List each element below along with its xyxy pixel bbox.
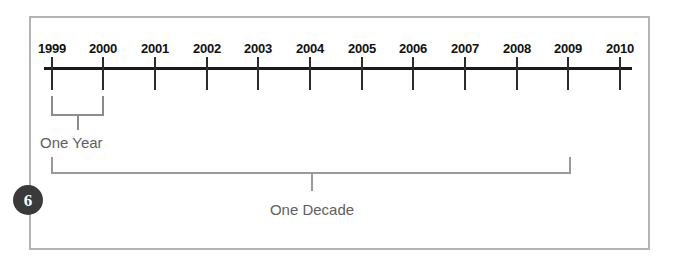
one-decade-bracket-stem: [311, 174, 313, 191]
year-label: 2000: [89, 41, 117, 56]
one-year-bracket-stem: [77, 116, 79, 130]
axis-tick: [206, 57, 208, 90]
year-label: 2002: [193, 41, 221, 56]
year-label: 2006: [399, 41, 427, 56]
year-label: 2004: [296, 41, 324, 56]
axis-tick: [154, 57, 156, 90]
year-label: 2010: [606, 41, 634, 56]
axis-tick: [361, 57, 363, 90]
year-label: 1999: [38, 41, 66, 56]
axis-tick: [464, 57, 466, 90]
axis-tick: [567, 57, 569, 90]
year-label: 2005: [348, 41, 376, 56]
one-decade-label: One Decade: [270, 201, 354, 218]
year-label: 2007: [451, 41, 479, 56]
one-decade-bracket: [51, 157, 571, 174]
axis-tick: [257, 57, 259, 90]
timeline-axis: [44, 67, 632, 70]
year-label: 2008: [503, 41, 531, 56]
one-year-bracket: [51, 96, 104, 116]
axis-tick: [412, 57, 414, 90]
one-year-label: One Year: [40, 134, 103, 151]
axis-tick: [309, 57, 311, 90]
axis-tick: [619, 57, 621, 90]
year-label: 2009: [554, 41, 582, 56]
axis-tick: [516, 57, 518, 90]
axis-tick: [102, 57, 104, 90]
year-label: 2003: [244, 41, 272, 56]
figure-number-badge: 6: [13, 185, 43, 215]
year-label: 2001: [141, 41, 169, 56]
axis-tick: [51, 57, 53, 90]
timeline-figure: 1999200020012002200320042005200620072008…: [0, 0, 678, 272]
